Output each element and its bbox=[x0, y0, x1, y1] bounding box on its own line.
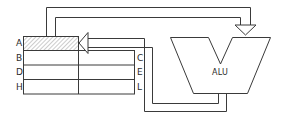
label-register-a: A bbox=[16, 38, 22, 48]
label-register-b: B bbox=[16, 53, 22, 63]
label-register-h: H bbox=[16, 82, 23, 92]
label-register-d: D bbox=[16, 67, 23, 77]
label-register-c: C bbox=[137, 53, 143, 63]
register-file bbox=[24, 37, 135, 95]
label-register-e: E bbox=[137, 67, 143, 77]
alu-label: ALU bbox=[212, 68, 228, 77]
arrow-down-icon bbox=[235, 25, 256, 35]
label-register-l: L bbox=[137, 82, 142, 92]
bus-a-to-alu bbox=[47, 8, 257, 37]
alu-shape bbox=[171, 38, 271, 94]
register-a-hatched bbox=[24, 37, 79, 51]
